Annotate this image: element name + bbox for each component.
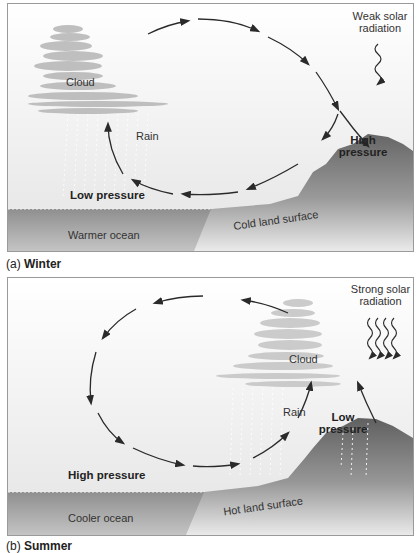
cloud-label: Cloud (289, 353, 318, 365)
high-pressure-label: High pressure (333, 134, 393, 158)
low-pressure-label: Low pressure (70, 189, 145, 201)
summer-caption: (b) Summer (6, 539, 72, 553)
summer-panel: Cloud Rain Strong solar radiation High p… (7, 277, 414, 536)
winter-caption: (a) Winter (6, 257, 61, 271)
winter-panel: Cloud Rain Weak solar radiation Low pres… (7, 3, 414, 252)
ocean-label: Warmer ocean (68, 229, 140, 241)
summer-diagram (8, 278, 413, 535)
ocean-label: Cooler ocean (68, 512, 133, 524)
radiation-label: Strong solar radiation (343, 283, 414, 307)
low-pressure-label: Low pressure (313, 411, 373, 435)
rain-label: Rain (283, 406, 306, 418)
winter-diagram (8, 4, 413, 251)
rain-label: Rain (136, 130, 159, 142)
high-pressure-label: High pressure (68, 469, 145, 481)
radiation-label: Weak solar radiation (345, 10, 414, 34)
cloud-label: Cloud (66, 76, 95, 88)
